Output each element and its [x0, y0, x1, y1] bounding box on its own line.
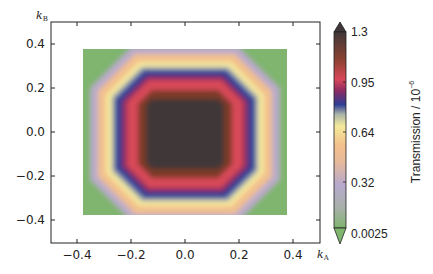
colorbar-gradient — [334, 32, 346, 228]
colorbar-tick-label: 1.3 — [351, 25, 368, 39]
x-tick-label: 0.2 — [229, 248, 248, 262]
y-tick-label: 0.4 — [26, 37, 45, 51]
y-tick-labels: 0.4 0.2 0.0 −0.2 −0.4 — [16, 37, 45, 227]
x-axis-label: kA — [317, 248, 330, 262]
y-axis-label: kB — [36, 9, 48, 23]
x-tick-label: 0.4 — [283, 248, 302, 262]
x-tick-label: −0.4 — [62, 248, 91, 262]
colorbar-label: Transmission / 10−6 — [408, 81, 423, 183]
x-tick-labels: −0.4 −0.2 0.0 0.2 0.4 — [62, 248, 302, 262]
x-tick-label: 0.0 — [175, 248, 194, 262]
colorbar-extend-max — [334, 22, 346, 32]
heatmap-figure: −0.4 −0.2 0.0 0.2 0.4 kA 0.4 0.2 0.0 −0.… — [0, 0, 433, 274]
heatmap-data — [83, 46, 287, 222]
y-tick-label: 0.2 — [26, 81, 45, 95]
x-tick-label: −0.2 — [116, 248, 145, 262]
y-tick-label: −0.2 — [16, 169, 45, 183]
colorbar-extend-min — [334, 228, 346, 244]
colorbar-tick-label: 0.64 — [351, 126, 375, 140]
y-tick-label: −0.4 — [16, 213, 45, 227]
colorbar-tick-label: 0.32 — [351, 176, 375, 190]
colorbar: 1.3 0.95 0.64 0.32 0.0025 — [334, 22, 388, 244]
colorbar-tick-label: 0.0025 — [351, 227, 388, 241]
y-tick-label: 0.0 — [26, 125, 45, 139]
colorbar-tick-label: 0.95 — [351, 76, 375, 90]
